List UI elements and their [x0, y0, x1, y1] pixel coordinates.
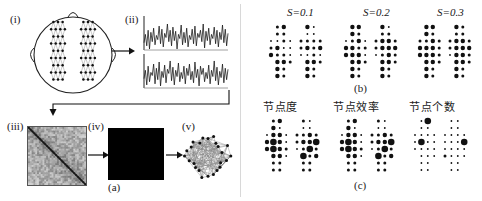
step-label-ii: (ii)	[125, 14, 138, 25]
binary-adjacency-matrix	[108, 128, 164, 180]
arrow-matrix-to-binary	[88, 150, 110, 160]
panel-b-label: (b)	[354, 83, 367, 94]
arrow-traces-to-matrix	[44, 88, 230, 118]
figure-root: (i) (ii)	[0, 0, 482, 201]
step-label-iii: (iii)	[7, 121, 24, 132]
sparsity-map-2	[342, 22, 408, 84]
sparsity-title-3: S=0.3	[437, 7, 464, 18]
sparsity-map-3	[416, 22, 482, 84]
metric-title-node-efficiency: 节点效率	[333, 98, 379, 114]
sparsity-title-2: S=0.2	[363, 7, 390, 18]
metric-title-node-degree: 节点度	[263, 98, 298, 114]
electrode-montage-head	[28, 10, 118, 96]
eeg-time-series	[144, 16, 228, 90]
panel-b: S=0.1 S=0.2 S=0.3 (b)	[241, 0, 482, 96]
step-label-i: (i)	[10, 14, 20, 25]
correlation-matrix	[27, 126, 87, 186]
sparsity-map-1	[267, 22, 333, 84]
brain-network-graph	[180, 128, 236, 184]
sparsity-title-1: S=0.1	[287, 7, 314, 18]
arrow-head-to-traces	[112, 46, 136, 56]
node-degree-map	[263, 116, 329, 178]
node-count-map	[411, 116, 477, 178]
panel-a-label: (a)	[108, 182, 120, 193]
panel-c: 节点度 节点效率 节点个数 (c)	[241, 96, 482, 201]
panel-c-label: (c)	[354, 180, 366, 191]
step-label-iv: (iv)	[88, 121, 104, 132]
node-efficiency-map	[338, 116, 404, 178]
panel-a: (i) (ii)	[0, 0, 240, 201]
metric-title-node-count: 节点个数	[409, 98, 455, 114]
